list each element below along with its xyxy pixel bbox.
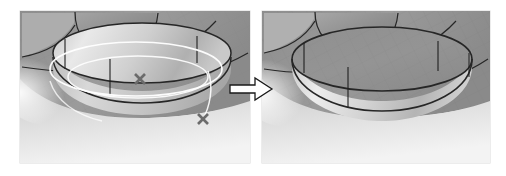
panel-after[interactable] bbox=[262, 11, 490, 163]
right-arrow-connector bbox=[228, 76, 274, 102]
cad-viewport-after[interactable] bbox=[262, 11, 490, 163]
panel-before[interactable] bbox=[20, 11, 250, 163]
cad-viewport-before[interactable] bbox=[20, 11, 250, 163]
right-arrow-icon bbox=[228, 76, 274, 102]
cad-before-after-figure bbox=[0, 0, 506, 176]
